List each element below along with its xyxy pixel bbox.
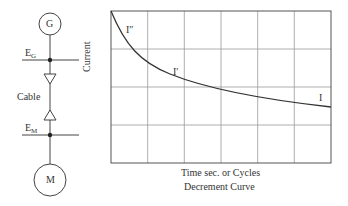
chart-grid	[111, 11, 331, 163]
cable-label: Cable	[17, 91, 40, 102]
motor-label: M	[46, 174, 55, 185]
cable-termination-top-icon	[44, 74, 56, 84]
cable-termination-bottom-icon	[44, 110, 56, 120]
chart-caption: Decrement Curve	[184, 181, 255, 192]
bus-node-g	[48, 58, 52, 62]
y-axis-label: Current	[81, 41, 92, 72]
bus-sub: G	[31, 52, 36, 60]
steady-state-annotation: I	[319, 92, 322, 103]
generator-bus-label: EG	[25, 47, 36, 60]
bus-node-m	[48, 133, 52, 137]
motor-bus-label: EM	[25, 122, 37, 135]
bus-sub: M	[31, 127, 37, 135]
x-axis-label: Time sec. or Cycles	[181, 167, 260, 178]
subtransient-annotation: I″	[126, 24, 134, 35]
transient-annotation: I′	[173, 66, 179, 77]
generator-label: G	[46, 18, 53, 29]
one-line-diagram	[22, 13, 79, 196]
